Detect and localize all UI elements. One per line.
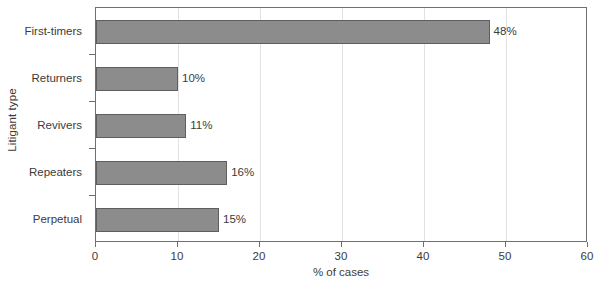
x-axis-tick-label: 0 (75, 250, 115, 262)
x-axis-tick-label: 60 (567, 250, 598, 262)
y-axis-tick (89, 195, 95, 196)
category-label: First-timers (25, 24, 83, 38)
x-axis-title: % of cases (95, 266, 587, 278)
x-axis-tick-label: 40 (403, 250, 443, 262)
bar (96, 67, 178, 91)
y-axis-tick (89, 148, 95, 149)
category-axis-labels: First-timersReturnersReviversRepeatersPe… (0, 7, 86, 242)
category-label: Returners (32, 71, 83, 85)
x-axis-tick-label: 10 (157, 250, 197, 262)
bar-value-label: 48% (494, 24, 517, 38)
category-label: Repeaters (29, 165, 82, 179)
bar-value-label: 10% (182, 71, 205, 85)
bar-chart: Litigant type First-timersReturnersReviv… (0, 0, 598, 288)
bar (96, 208, 219, 232)
x-axis-tick (177, 242, 178, 247)
gridline (506, 8, 507, 241)
category-label: Revivers (37, 118, 82, 132)
x-axis-tick (505, 242, 506, 247)
x-axis-tick-label: 30 (321, 250, 361, 262)
bar-value-label: 11% (190, 118, 212, 132)
x-axis-tick (95, 242, 96, 247)
bar-value-label: 16% (231, 165, 254, 179)
bar-value-label: 15% (223, 212, 246, 226)
y-axis-tick (89, 101, 95, 102)
x-axis-tick (259, 242, 260, 247)
bar (96, 114, 186, 138)
x-axis-tick (423, 242, 424, 247)
x-axis-tick (341, 242, 342, 247)
x-axis-tick (587, 242, 588, 247)
x-axis-tick-label: 20 (239, 250, 279, 262)
bar (96, 161, 227, 185)
bar (96, 20, 490, 44)
y-axis-tick (89, 54, 95, 55)
plot-area (95, 7, 587, 242)
category-label: Perpetual (33, 212, 82, 226)
x-axis-tick-label: 50 (485, 250, 525, 262)
